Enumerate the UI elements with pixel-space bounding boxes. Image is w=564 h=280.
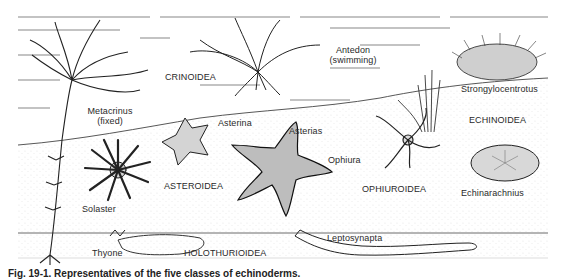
antedon-note: (swimming) [318, 55, 388, 65]
label-crinoidea: CRINOIDEA [165, 72, 216, 82]
label-solaster: Solaster [82, 204, 116, 214]
label-echinoidea: ECHINOIDEA [469, 115, 526, 125]
label-metacrinus: Metacrinus (fixed) [80, 106, 140, 126]
label-leptosynapta: Leptosynapta [327, 233, 382, 243]
label-holothurioidea: HOLOTHURIOIDEA [184, 248, 266, 258]
label-asterina: Asterina [218, 118, 252, 128]
label-asterias: Asterias [289, 126, 322, 136]
label-thyone: Thyone [92, 248, 123, 258]
label-ophiuroidea: OPHIUROIDEA [362, 184, 426, 194]
strongylocentrotus-drawing [452, 33, 546, 80]
echinoderm-illustration [0, 0, 564, 280]
label-asteroidea: ASTEROIDEA [164, 181, 223, 191]
figure-caption: Fig. 19-1. Representatives of the five c… [8, 268, 300, 279]
echinarachnius-drawing [471, 145, 539, 181]
label-ophiura: Ophiura [328, 155, 361, 165]
label-antedon: Antedon (swimming) [318, 45, 388, 65]
metacrinus-note: (fixed) [80, 116, 140, 126]
antedon-name: Antedon [318, 45, 388, 55]
label-strongylocentrotus: Strongylocentrotus [461, 84, 538, 94]
metacrinus-name: Metacrinus [80, 106, 140, 116]
antedon-drawing [190, 18, 320, 96]
label-echinarachnius: Echinarachnius [461, 188, 524, 198]
